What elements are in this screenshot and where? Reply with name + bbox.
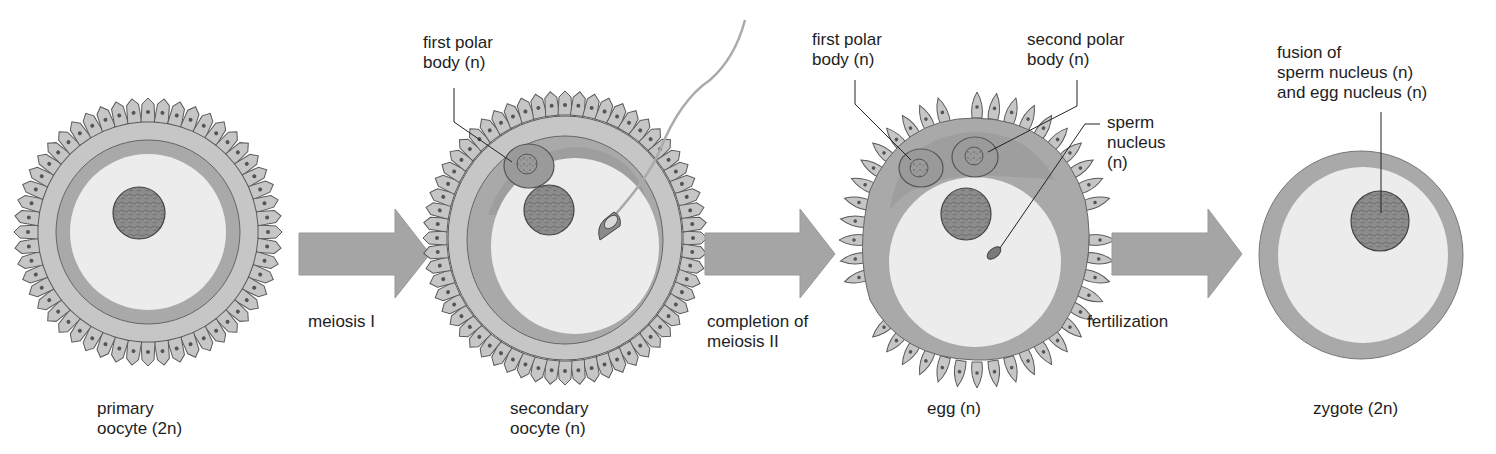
label-line: fusion of	[1277, 43, 1427, 63]
callout-egg-first-polar-body: first polar body (n)	[812, 30, 882, 70]
cytoplasm	[1278, 167, 1448, 343]
transition-label-fertilization: fertilization	[1087, 312, 1168, 332]
transition-label-meiosis-1: meiosis I	[308, 312, 375, 332]
stage-label-egg: egg (n)	[927, 399, 981, 419]
label-line: sperm nucleus (n)	[1277, 63, 1427, 83]
label-line: zygote (2n)	[1313, 399, 1398, 419]
label-line: fertilization	[1087, 312, 1168, 332]
egg-cell	[839, 92, 1115, 388]
label-line: body (n)	[423, 53, 493, 73]
label-line: sperm	[1107, 113, 1166, 133]
callout-zygote-fusion: fusion of sperm nucleus (n) and egg nucl…	[1277, 43, 1427, 103]
label-line: primary	[97, 399, 182, 419]
callout-egg-sperm-nucleus: sperm nucleus (n)	[1107, 113, 1166, 173]
nucleus	[524, 185, 574, 235]
fused-nucleus	[1351, 191, 1409, 251]
label-line: first polar	[423, 33, 493, 53]
label-line: oocyte (2n)	[97, 419, 182, 439]
nucleus	[113, 187, 165, 239]
arrow-fertilization	[1112, 209, 1242, 298]
transition-label-meiosis-2: completion of meiosis II	[707, 312, 808, 352]
stage-label-secondary-oocyte: secondary oocyte (n)	[510, 399, 588, 439]
label-line: completion of	[707, 312, 808, 332]
primary-oocyte-cell	[14, 98, 282, 366]
label-line: oocyte (n)	[510, 419, 588, 439]
label-line: and egg nucleus (n)	[1277, 83, 1427, 103]
label-line: body (n)	[812, 50, 882, 70]
arrow-meiosis-2	[705, 209, 835, 298]
label-line: body (n)	[1027, 50, 1124, 70]
label-line: meiosis I	[308, 312, 375, 332]
oogenesis-diagram	[0, 0, 1496, 454]
stage-label-primary-oocyte: primary oocyte (2n)	[97, 399, 182, 439]
label-line: nucleus	[1107, 133, 1166, 153]
label-line: meiosis II	[707, 332, 808, 352]
label-line: (n)	[1107, 153, 1166, 173]
secondary-oocyte-cell	[423, 20, 745, 385]
label-line: first polar	[812, 30, 882, 50]
label-line: secondary	[510, 399, 588, 419]
arrow-meiosis-1	[299, 209, 430, 298]
callout-egg-second-polar-body: second polar body (n)	[1027, 30, 1124, 70]
label-line: second polar	[1027, 30, 1124, 50]
callout-secondary-first-polar-body: first polar body (n)	[423, 33, 493, 73]
egg-nucleus	[941, 188, 991, 240]
stage-label-zygote: zygote (2n)	[1313, 399, 1398, 419]
zygote-cell	[1259, 151, 1463, 359]
label-line: egg (n)	[927, 399, 981, 419]
